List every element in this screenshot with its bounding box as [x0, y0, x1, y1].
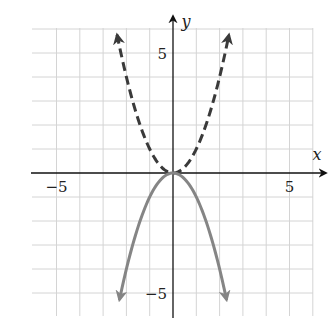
y-tick-label: −5	[145, 285, 167, 303]
x-tick-label: −5	[45, 178, 67, 196]
chart: −555−5xy	[0, 0, 334, 329]
y-axis-label: y	[180, 12, 191, 31]
axes	[31, 16, 326, 318]
y-tick-label: 5	[157, 45, 167, 63]
x-tick-label: 5	[285, 178, 295, 196]
labels: −555−5xy	[45, 12, 321, 303]
x-axis-label: x	[312, 145, 321, 164]
